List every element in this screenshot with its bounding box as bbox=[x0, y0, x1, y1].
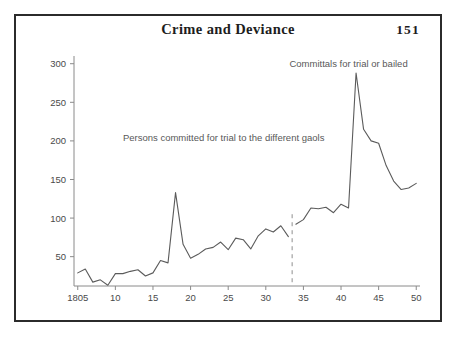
chart-axes bbox=[74, 56, 420, 286]
chart-plot-area: 50100150200250300 1805101520253035404550… bbox=[16, 42, 444, 320]
x-tick-label: 40 bbox=[336, 292, 347, 303]
x-tick-label: 50 bbox=[411, 292, 422, 303]
line-chart: 50100150200250300 1805101520253035404550… bbox=[16, 42, 444, 320]
x-tick-label: 30 bbox=[261, 292, 272, 303]
x-tick-label: 20 bbox=[185, 292, 196, 303]
y-tick-label: 50 bbox=[55, 251, 66, 262]
x-tick-label: 10 bbox=[110, 292, 121, 303]
x-axis-ticks: 1805101520253035404550 bbox=[67, 286, 421, 303]
y-tick-label: 250 bbox=[50, 97, 66, 108]
x-tick-label: 45 bbox=[373, 292, 384, 303]
figure-frame: Crime and Deviance 151 50100150200250300… bbox=[14, 14, 442, 322]
page-number: 151 bbox=[396, 22, 420, 38]
series-line-committals-bailed bbox=[296, 73, 416, 224]
x-tick-label: 35 bbox=[298, 292, 309, 303]
y-tick-label: 100 bbox=[50, 213, 66, 224]
y-tick-label: 150 bbox=[50, 174, 66, 185]
x-tick-label: 15 bbox=[148, 292, 159, 303]
page-title: Crime and Deviance bbox=[16, 21, 440, 38]
y-tick-label: 300 bbox=[50, 58, 66, 69]
y-tick-label: 200 bbox=[50, 135, 66, 146]
annotation-committals-bailed: Committals for trial or bailed bbox=[289, 58, 407, 69]
series-line-persons-committed bbox=[78, 193, 289, 286]
x-tick-label: 25 bbox=[223, 292, 234, 303]
annotation-persons-committed: Persons committed for trial to the diffe… bbox=[123, 132, 325, 143]
y-axis-ticks: 50100150200250300 bbox=[50, 58, 74, 262]
x-tick-label: 1805 bbox=[67, 292, 88, 303]
